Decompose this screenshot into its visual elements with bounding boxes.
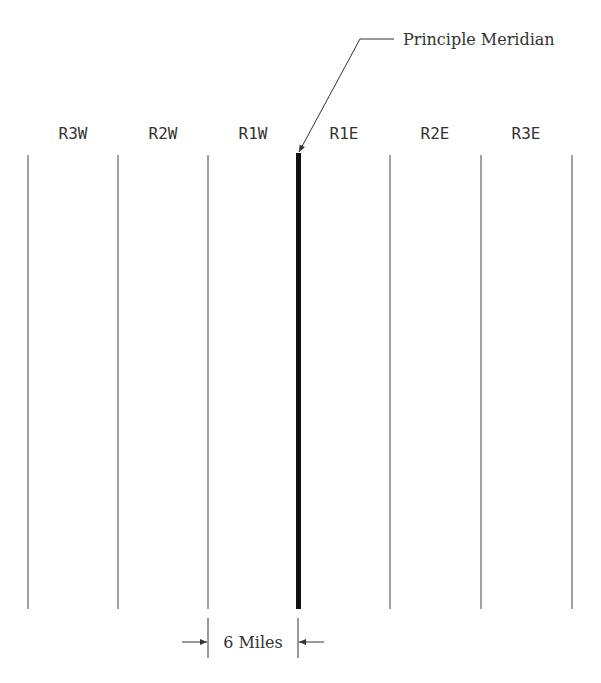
range-label-r3e: R3E: [512, 124, 541, 143]
principle-meridian-line: [296, 153, 301, 609]
range-label-r3w: R3W: [59, 124, 88, 143]
principle-meridian-label: Principle Meridian: [403, 30, 555, 49]
six-mile-dimension: 6 Miles: [182, 618, 324, 658]
range-labels: R3W R2W R1W R1E R2E R3E: [59, 124, 541, 143]
range-label-r1e: R1E: [330, 124, 359, 143]
range-diagram: Principle Meridian R3W R2W R1W R1E R2E R…: [0, 0, 601, 683]
dimension-label: 6 Miles: [223, 633, 283, 652]
range-label-r2w: R2W: [149, 124, 178, 143]
range-label-r1w: R1W: [239, 124, 268, 143]
range-label-r2e: R2E: [421, 124, 450, 143]
